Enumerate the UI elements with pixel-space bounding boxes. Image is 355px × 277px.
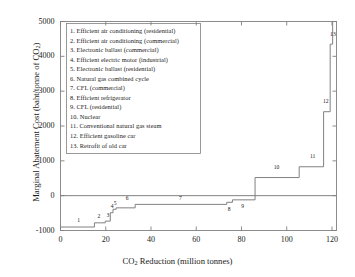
legend-entry-2: 2. Efficient air conditioning (commercia… <box>70 36 198 46</box>
x-tick-label: 40 <box>136 235 166 244</box>
legend-entry-5: 5. Electronic ballast (residential) <box>70 64 198 74</box>
y-tick-label: 0 <box>21 191 55 200</box>
step-number-1: 1 <box>73 217 85 223</box>
y-tick-label: 2000 <box>21 121 55 130</box>
x-tick-label: 20 <box>91 235 121 244</box>
x-tick-label: 80 <box>226 235 256 244</box>
legend-entry-11: 11. Conventional natural gas steam <box>70 121 198 131</box>
x-axis-title-suffix: Reduction (million tonnes) <box>138 256 233 266</box>
x-tick-label: 0 <box>46 235 76 244</box>
legend-entry-8: 8. Efficient refrigerator <box>70 93 198 103</box>
step-number-9: 9 <box>237 203 249 209</box>
legend-entry-9: 9. CFL (residential) <box>70 102 198 112</box>
step-number-6: 6 <box>121 195 133 201</box>
x-tick-label: 120 <box>317 235 347 244</box>
x-tick-label: 60 <box>181 235 211 244</box>
mac-curve-figure: Marginal Abatement Cost (baht/tonne of C… <box>0 0 355 277</box>
step-number-5: 5 <box>109 200 121 206</box>
legend-entry-12: 12. Efficient gasoline car <box>70 131 198 141</box>
legend-entry-1: 1. Efficient air conditioning (residenti… <box>70 26 198 36</box>
y-axis-title-subscript: 2 <box>34 45 41 48</box>
legend-box: 1. Efficient air conditioning (residenti… <box>66 23 200 153</box>
legend-entry-10: 10. Nuclear <box>70 112 198 122</box>
step-number-3: 3 <box>102 212 114 218</box>
step-number-11: 11 <box>307 153 319 159</box>
y-tick-label: 1000 <box>21 156 55 165</box>
step-number-13: 13 <box>327 31 339 37</box>
step-number-10: 10 <box>271 164 283 170</box>
y-tick-label: -1000 <box>21 226 55 235</box>
x-axis-title-prefix: CO <box>123 256 135 266</box>
x-axis-title: CO2 Reduction (million tonnes) <box>0 256 355 266</box>
step-number-12: 12 <box>320 98 332 104</box>
x-tick-label: 100 <box>272 235 302 244</box>
legend-entry-6: 6. Natural gas combined cycle <box>70 74 198 84</box>
legend-entry-3: 3. Electronic ballast (commercial) <box>70 45 198 55</box>
legend-entry-13: 13. Retrofit of old car <box>70 141 198 151</box>
step-number-7: 7 <box>174 195 186 201</box>
legend-entry-4: 4. Efficient electric motor (industrial) <box>70 55 198 65</box>
legend-entry-7: 7. CFL (commercial) <box>70 83 198 93</box>
step-number-8: 8 <box>223 206 235 212</box>
y-axis-title-suffix: ) <box>31 43 41 46</box>
y-tick-label: 3000 <box>21 86 55 95</box>
y-tick-label: 4000 <box>21 51 55 60</box>
y-tick-label: 5000 <box>21 17 55 26</box>
